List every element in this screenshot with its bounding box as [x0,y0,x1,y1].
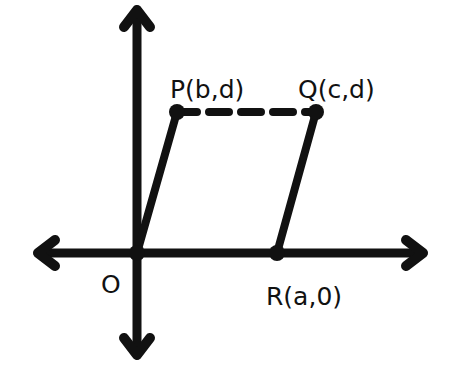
diagram-canvas: O P(b,d) Q(c,d) R(a,0) [0,0,450,391]
label-origin: O [101,270,121,299]
segment-op [137,112,177,253]
x-axis [38,240,423,266]
point-p [169,104,185,120]
label-point-p: P(b,d) [170,75,244,104]
segment-qr [277,112,316,253]
label-point-r: R(a,0) [266,282,342,311]
point-q [308,104,324,120]
y-axis [124,10,150,355]
point-o [129,245,145,261]
point-r [269,245,285,261]
label-point-q: Q(c,d) [298,75,375,104]
parallelogram-diagram: O P(b,d) Q(c,d) R(a,0) [0,0,450,391]
